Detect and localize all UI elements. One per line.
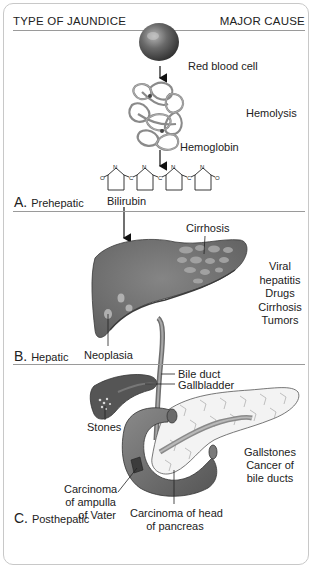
cause-hepatitis: hepatitis: [252, 274, 308, 288]
atom-n-2: N: [142, 161, 146, 174]
label-carcinoma-line2: of ampulla: [64, 496, 116, 509]
cause-hemolysis: Hemolysis: [246, 107, 297, 120]
section-c-letter: C.: [14, 510, 28, 526]
section-c-title: C. Posthepatic: [14, 512, 89, 526]
red-blood-cell-icon: [139, 23, 179, 61]
section-a-letter: A.: [14, 194, 27, 210]
cause-cirrhosis: Cirrhosis: [252, 301, 308, 315]
cause-bile-ducts: bile ducts: [240, 472, 300, 485]
section-c-name: Posthepatic: [32, 513, 89, 525]
causes-posthepatic: Gallstones Cancer of bile ducts: [240, 446, 300, 485]
section-b-title: B. Hepatic: [14, 350, 68, 364]
atom-n-4: N: [200, 161, 204, 174]
label-carcinoma-head: Carcinoma of head: [130, 507, 220, 520]
section-a-title: A. Prehepatic: [14, 196, 84, 210]
atom-o-right: O: [215, 172, 220, 185]
section-b-letter: B.: [14, 348, 27, 364]
label-of-pancreas: of pancreas: [130, 520, 220, 533]
label-cirrhosis: Cirrhosis: [186, 222, 229, 235]
atom-o-left: O: [100, 172, 105, 185]
cause-gallstones: Gallstones: [240, 446, 300, 459]
label-stones: Stones: [87, 421, 121, 434]
atom-c-3: C: [187, 172, 191, 185]
label-carcinoma-pancreas: Carcinoma of head of pancreas: [130, 507, 220, 533]
label-gallbladder: Gallbladder: [178, 379, 234, 392]
atom-c-2: C: [158, 172, 162, 185]
causes-hepatic: Viral hepatitis Drugs Cirrhosis Tumors: [252, 260, 308, 328]
label-hemoglobin: Hemoglobin: [180, 141, 239, 154]
section-a-name: Prehepatic: [31, 197, 84, 209]
label-carcinoma-line1: Carcinoma: [64, 483, 116, 496]
section-b-name: Hepatic: [31, 351, 68, 363]
label-bilirubin: Bilirubin: [107, 195, 146, 208]
hemoglobin-icon: [129, 83, 183, 150]
label-neoplasia: Neoplasia: [84, 349, 133, 362]
label-red-blood-cell: Red blood cell: [188, 60, 258, 73]
atom-n-1: N: [113, 161, 117, 174]
cause-drugs: Drugs: [252, 287, 308, 301]
cause-tumors: Tumors: [252, 314, 308, 328]
atom-c-1: C: [129, 172, 133, 185]
cause-cancer-of: Cancer of: [240, 459, 300, 472]
cause-viral: Viral: [252, 260, 308, 274]
atom-n-3: N: [171, 161, 175, 174]
liver-icon: [92, 239, 247, 337]
rule-b-c: [13, 364, 305, 365]
rule-a-b: [13, 211, 305, 212]
